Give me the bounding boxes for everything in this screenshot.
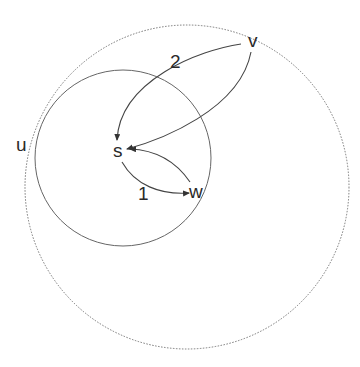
region-u-circle xyxy=(35,70,211,246)
outer-dotted-circle xyxy=(25,25,349,349)
edge-s-w xyxy=(122,162,189,193)
edge-label-1: 1 xyxy=(138,184,149,203)
node-label-s: s xyxy=(113,141,123,160)
node-label-w: w xyxy=(189,182,203,201)
node-label-u: u xyxy=(16,135,27,154)
node-label-v: v xyxy=(248,31,258,50)
edge-w-s xyxy=(130,149,190,182)
edge-label-2: 2 xyxy=(170,52,181,71)
